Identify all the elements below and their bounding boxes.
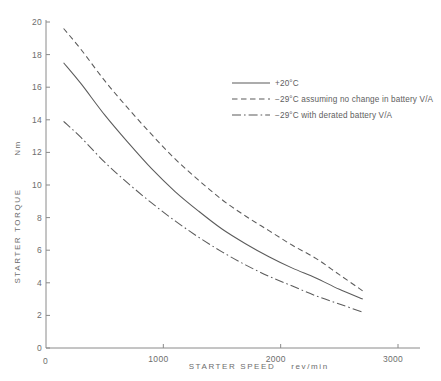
y-tick-label: 20 (32, 17, 42, 27)
y-tick-label: 14 (32, 115, 42, 125)
y-tick-label: 12 (32, 147, 42, 157)
y-tick-label: 6 (37, 245, 42, 255)
y-tick-label: 8 (37, 213, 42, 223)
legend-label-1: +20°C (275, 79, 299, 88)
y-tick-label: 10 (32, 180, 42, 190)
x-axis-unit: rev/min (291, 362, 328, 371)
x-origin-label: 0 (43, 356, 48, 366)
x-tick-label: 1000 (148, 354, 168, 364)
legend-label-2: −29°C assuming no change in battery V/A (275, 95, 434, 104)
axis-titles: STARTER TORQUE Nm STARTER SPEED rev/min … (13, 140, 329, 371)
chart-legend: +20°C−29°C assuming no change in battery… (232, 79, 434, 120)
x-axis-title: STARTER SPEED (189, 362, 276, 371)
data-curves (64, 29, 363, 313)
x-axis-ticks: 100020003000 (148, 344, 403, 364)
chart-container: 02468101214161820 100020003000 STARTER T… (0, 0, 441, 381)
x-tick-label: 3000 (383, 354, 403, 364)
starter-torque-speed-chart: 02468101214161820 100020003000 STARTER T… (0, 0, 441, 381)
y-tick-label: 0 (37, 343, 42, 353)
y-axis-title: STARTER TORQUE (13, 188, 22, 283)
y-tick-label: 18 (32, 50, 42, 60)
y-axis-ticks: 02468101214161820 (32, 17, 50, 353)
legend-label-3: −29°C with derated battery V/A (275, 111, 393, 120)
curve-series-3 (64, 121, 363, 312)
axes-group (46, 20, 420, 348)
y-tick-label: 2 (37, 310, 42, 320)
curve-series-2 (64, 29, 363, 291)
y-axis-unit: Nm (13, 140, 22, 156)
y-tick-label: 4 (37, 278, 42, 288)
y-tick-label: 16 (32, 82, 42, 92)
